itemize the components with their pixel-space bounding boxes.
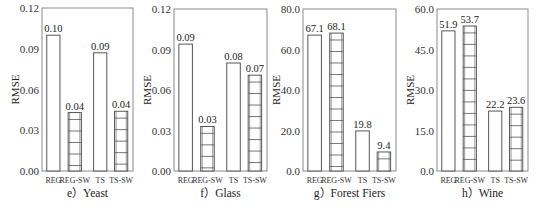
y-axis-label: RMSE xyxy=(9,74,21,104)
y-tick-label: 45.0 xyxy=(415,44,435,56)
bar-value-label: 9.4 xyxy=(377,140,391,151)
y-axis-label: RMSE xyxy=(404,75,416,105)
chart-caption: g）Forest Fiers xyxy=(314,187,386,200)
x-category-label: TS-SW xyxy=(243,176,267,185)
bar-ts-sw xyxy=(377,152,390,171)
y-tick-label: 60.0 xyxy=(281,44,301,56)
bar-value-label: 0.04 xyxy=(112,99,131,110)
bar-value-label: 22.2 xyxy=(486,99,504,110)
x-category-label: TS xyxy=(229,176,238,185)
bar-value-label: 51.9 xyxy=(439,19,457,30)
bar-ts-sw xyxy=(115,111,128,171)
bar-reg xyxy=(308,35,321,171)
bar-value-label: 53.7 xyxy=(461,14,479,25)
bar-reg-sw xyxy=(330,33,343,171)
y-tick-label: 80.0 xyxy=(281,3,301,15)
x-category-label: TS xyxy=(358,176,367,185)
chart-canvas: 0.000.030.060.090.12RMSE0.10REG0.04REG-S… xyxy=(0,0,536,213)
x-category-label: TS-SW xyxy=(109,176,133,185)
y-tick-label: 40.0 xyxy=(281,84,301,96)
bar-ts-sw xyxy=(248,75,261,171)
y-axis-label: RMSE xyxy=(141,75,153,105)
bar-reg xyxy=(442,31,455,171)
chart-panel-0: 0.000.030.060.090.12RMSE0.10REG0.04REG-S… xyxy=(9,2,134,199)
bar-value-label: 0.08 xyxy=(224,51,242,62)
bar-value-label: 0.03 xyxy=(198,114,216,125)
y-tick-label: 20.0 xyxy=(281,125,301,137)
bar-value-label: 67.1 xyxy=(305,23,323,34)
y-tick-label: 60.0 xyxy=(415,3,435,15)
y-tick-label: 30.0 xyxy=(415,84,435,96)
bar-ts-sw xyxy=(510,107,523,171)
bar-value-label: 0.07 xyxy=(246,63,264,74)
x-category-label: REG-SW xyxy=(192,176,223,185)
y-tick-label: 15.0 xyxy=(415,125,435,137)
y-tick-label: 0.09 xyxy=(20,43,40,55)
y-axis-label: RMSE xyxy=(270,75,282,105)
chart-panel-3: 0.015.030.045.060.0RMSE51.9REG53.7REG-SW… xyxy=(404,3,529,199)
y-tick-label: 0.06 xyxy=(20,84,40,96)
y-tick-label: 0.0 xyxy=(420,165,434,177)
chart-caption: e）Yeast xyxy=(67,187,109,199)
bar-value-label: 0.09 xyxy=(91,41,109,52)
x-category-label: TS xyxy=(491,176,500,185)
y-tick-label: 0.03 xyxy=(20,124,40,136)
bar-reg-sw xyxy=(463,26,476,171)
y-tick-label: 0.12 xyxy=(152,3,171,15)
chart-panel-1: 0.000.030.060.090.12RMSE0.09REG0.03REG-S… xyxy=(141,3,267,199)
y-tick-label: 0.0 xyxy=(286,165,300,177)
x-category-label: REG-SW xyxy=(59,176,90,185)
bar-value-label: 0.09 xyxy=(176,32,194,43)
chart-caption: h）Wine xyxy=(462,187,503,199)
y-tick-label: 0.03 xyxy=(152,125,172,137)
y-tick-label: 0.06 xyxy=(152,84,172,96)
bar-reg-sw xyxy=(68,113,81,171)
y-tick-label: 0.09 xyxy=(152,44,172,56)
bar-ts xyxy=(356,131,369,171)
x-category-label: TS-SW xyxy=(372,176,396,185)
y-tick-label: 0.00 xyxy=(152,165,172,177)
bar-reg xyxy=(179,44,192,171)
bar-ts xyxy=(94,53,107,171)
bar-ts xyxy=(227,63,240,171)
x-category-label: TS xyxy=(96,176,105,185)
bar-value-label: 19.8 xyxy=(353,119,371,130)
bar-ts xyxy=(489,111,502,171)
x-category-label: TS-SW xyxy=(504,176,528,185)
chart-panel-2: 0.020.040.060.080.0RMSE67.1REG68.1REG-SW… xyxy=(270,3,396,200)
bar-reg-sw xyxy=(201,126,214,171)
y-tick-label: 0.00 xyxy=(20,165,40,177)
bar-reg xyxy=(47,35,60,171)
y-tick-label: 0.12 xyxy=(20,2,39,14)
bar-value-label: 0.10 xyxy=(44,23,62,34)
bar-value-label: 0.04 xyxy=(66,101,85,112)
x-category-label: REG-SW xyxy=(321,176,352,185)
x-category-label: REG-SW xyxy=(454,176,485,185)
bar-value-label: 23.6 xyxy=(507,95,525,106)
bar-value-label: 68.1 xyxy=(327,21,345,32)
chart-caption: f）Glass xyxy=(200,187,241,199)
